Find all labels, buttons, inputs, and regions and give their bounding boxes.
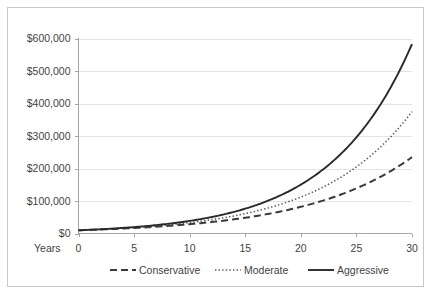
gridlines-group — [79, 40, 413, 202]
x-axis-tick-label: 10 — [184, 242, 196, 254]
y-axis-tick-marks — [75, 40, 79, 235]
chart-legend: ConservativeModerateAggressive — [110, 264, 389, 276]
x-axis-tick-label: 25 — [351, 242, 363, 254]
x-axis-tick-label: 30 — [406, 242, 418, 254]
y-axis-tick-labels: $0$100,000$200,000$300,000$400,000$500,0… — [27, 32, 71, 239]
x-axis-title: Years — [34, 242, 60, 254]
y-axis-tick-label: $0 — [59, 227, 71, 239]
y-axis-tick-label: $500,000 — [27, 65, 71, 77]
y-axis-tick-label: $400,000 — [27, 97, 71, 109]
y-axis-tick-label: $200,000 — [27, 162, 71, 174]
chart-figure: $0$100,000$200,000$300,000$400,000$500,0… — [0, 0, 438, 295]
x-axis-tick-label: 0 — [76, 242, 82, 254]
x-axis-tick-label: 20 — [295, 242, 307, 254]
legend-label-conservative: Conservative — [139, 264, 200, 276]
x-axis-tick-marks — [80, 234, 413, 238]
x-axis-tick-label: 5 — [131, 242, 137, 254]
x-axis-tick-label: 15 — [239, 242, 251, 254]
x-axis-tick-labels: 051015202530 — [76, 242, 418, 254]
series-line-conservative — [79, 157, 413, 230]
line-chart-canvas: $0$100,000$200,000$300,000$400,000$500,0… — [8, 8, 423, 286]
y-axis-tick-label: $300,000 — [27, 130, 71, 142]
y-axis-tick-label: $600,000 — [27, 32, 71, 44]
legend-label-aggressive: Aggressive — [337, 264, 389, 276]
legend-label-moderate: Moderate — [244, 264, 289, 276]
chart-frame-border: $0$100,000$200,000$300,000$400,000$500,0… — [7, 7, 424, 287]
y-axis-tick-label: $100,000 — [27, 195, 71, 207]
